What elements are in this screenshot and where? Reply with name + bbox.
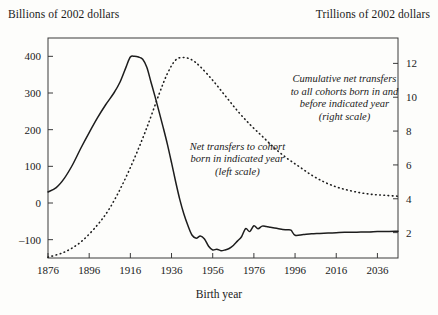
annotation-line: Net transfers to cohort: [189, 141, 286, 152]
left-tick-label: 200: [25, 124, 42, 136]
annotation-line: Cumulative net transfers: [293, 73, 397, 84]
left-tick-label: –100: [18, 234, 42, 246]
right-tick-label: 4: [406, 193, 412, 205]
x-tick-label: 1976: [243, 264, 266, 276]
x-tick-label: 1876: [37, 264, 60, 276]
left-tick-label: 400: [25, 50, 42, 62]
right-tick-label: 8: [406, 125, 412, 137]
annotation-line: (right scale): [319, 111, 371, 123]
left-tick-label: 0: [36, 197, 42, 209]
cumulative-transfers-annotation: Cumulative net transfersto all cohorts b…: [291, 73, 399, 123]
x-tick-label: 2016: [325, 264, 348, 276]
annotation-line: (left scale): [215, 166, 260, 178]
left-tick-label: 100: [25, 160, 42, 172]
x-tick-label: 1956: [202, 264, 225, 276]
x-tick-label: 1996: [284, 264, 307, 276]
annotation-line: to all cohorts born in and: [291, 86, 399, 97]
x-tick-label: 1936: [161, 264, 184, 276]
right-tick-label: 6: [406, 159, 412, 171]
x-axis-title: Birth year: [0, 288, 438, 300]
x-tick-label: 1896: [78, 264, 101, 276]
x-tick-label: 2036: [366, 264, 389, 276]
right-tick-label: 10: [406, 91, 418, 103]
annotation-line: before indicated year: [300, 98, 390, 109]
left-tick-label: 300: [25, 87, 42, 99]
x-axis-ticks: 187618961916193619561976199620162036: [37, 253, 389, 276]
chart-container: Billions of 2002 dollars Trillions of 20…: [0, 0, 438, 315]
x-tick-label: 1916: [119, 264, 142, 276]
right-tick-label: 2: [406, 227, 412, 239]
net-transfers-annotation: Net transfers to cohortborn in indicated…: [189, 141, 286, 178]
chart-plot-area: –1000100200300400 24681012 1876189619161…: [0, 0, 438, 315]
chart-annotations: Net transfers to cohortborn in indicated…: [189, 73, 399, 178]
right-tick-label: 12: [406, 57, 417, 69]
annotation-line: born in indicated year: [191, 153, 286, 164]
